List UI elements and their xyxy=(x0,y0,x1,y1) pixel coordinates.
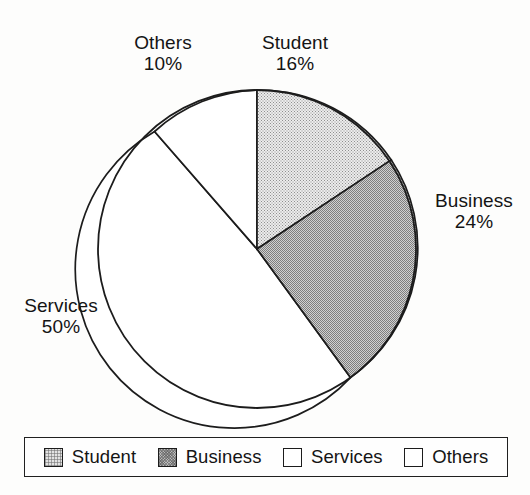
slice-label-others-name: Others xyxy=(108,32,218,53)
slice-label-services-name: Services xyxy=(2,295,120,316)
slice-label-business-name: Business xyxy=(418,190,530,211)
legend-swatch-services-icon xyxy=(283,448,302,467)
slice-label-student-name: Student xyxy=(235,32,355,53)
chart-legend: Student Business Services Others xyxy=(24,437,508,477)
slice-label-student-value: 16% xyxy=(235,53,355,74)
legend-item-others[interactable]: Others xyxy=(404,446,488,468)
legend-swatch-student-icon xyxy=(44,448,63,467)
legend-label-business: Business xyxy=(186,446,262,468)
legend-label-services: Services xyxy=(311,446,383,468)
slice-label-others: Others 10% xyxy=(108,32,218,75)
slice-label-services: Services 50% xyxy=(2,295,120,338)
legend-item-student[interactable]: Student xyxy=(44,446,136,468)
slice-label-business: Business 24% xyxy=(418,190,530,233)
legend-swatch-others-icon xyxy=(404,448,423,467)
slice-label-services-value: 50% xyxy=(2,316,120,337)
legend-swatch-business-icon xyxy=(158,448,177,467)
legend-item-business[interactable]: Business xyxy=(158,446,262,468)
pie-chart-figure: Others 10% Student 16% Business 24% Serv… xyxy=(0,0,530,495)
slice-label-others-value: 10% xyxy=(108,53,218,74)
slice-label-business-value: 24% xyxy=(418,211,530,232)
legend-label-student: Student xyxy=(72,446,136,468)
legend-item-services[interactable]: Services xyxy=(283,446,383,468)
slice-label-student: Student 16% xyxy=(235,32,355,75)
legend-label-others: Others xyxy=(432,446,488,468)
